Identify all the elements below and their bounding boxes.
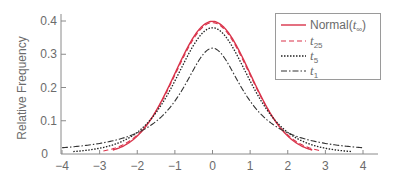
y-tick-label: 0.1 [40, 114, 57, 128]
y-tick-label: 0.3 [40, 47, 57, 61]
x-tick-label: 1 [247, 159, 254, 173]
x-tick-label: −1 [168, 159, 182, 173]
y-tick-label: 0.4 [40, 14, 57, 28]
x-tick-label: 0 [209, 159, 216, 173]
t-distribution-chart: 00.10.20.30.4−4−3−2−101234Relative Frequ… [0, 0, 403, 181]
y-tick-label: 0.2 [40, 81, 57, 95]
legend: Normal(t∞)t25t5t1 [276, 14, 381, 81]
x-tick-label: 4 [360, 159, 367, 173]
x-tick-label: 2 [284, 159, 291, 173]
x-tick-label: 3 [322, 159, 329, 173]
x-tick-label: −2 [130, 159, 144, 173]
y-tick-label: 0 [41, 147, 48, 161]
y-axis-title: Relative Frequency [15, 36, 29, 139]
x-tick-label: −3 [93, 159, 107, 173]
x-tick-label: −4 [55, 159, 69, 173]
